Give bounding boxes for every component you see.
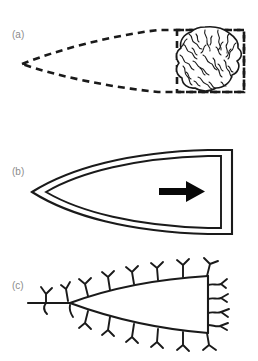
direction-arrow: [159, 181, 205, 202]
panel-b-graphic: [0, 130, 258, 255]
panel-b: (b): [0, 130, 258, 255]
panel-a: (a): [0, 0, 258, 130]
panel-a-graphic: [0, 0, 258, 130]
upper-branch: [70, 276, 208, 303]
figure-container: (a): [0, 0, 258, 361]
panel-c-graphic: [0, 255, 258, 361]
convoluted-blob: [177, 27, 242, 91]
panel-c: (c): [0, 255, 258, 361]
branchlets: [41, 258, 229, 351]
